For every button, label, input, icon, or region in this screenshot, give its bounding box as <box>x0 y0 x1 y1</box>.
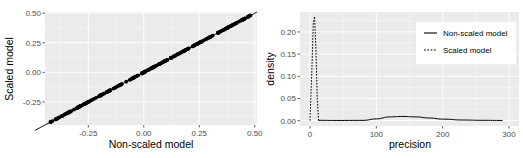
data-point <box>113 86 117 90</box>
data-point <box>193 43 197 47</box>
data-point <box>98 94 102 98</box>
y-tick-label: 0.20 <box>280 28 296 37</box>
x-tick-label: 100 <box>370 130 384 139</box>
data-point <box>84 102 88 106</box>
data-point <box>108 89 112 93</box>
x-tick-label: 300 <box>502 130 516 139</box>
x-axis-title: precision <box>389 138 431 150</box>
data-point <box>187 47 191 51</box>
y-axis-title: Scaled model <box>3 37 15 101</box>
y-tick-label: 0.50 <box>25 9 41 18</box>
y-tick-label: 0.00 <box>25 68 41 77</box>
data-point <box>199 40 203 44</box>
data-point <box>165 58 169 62</box>
x-tick-label: 0.25 <box>191 129 207 138</box>
figure: -0.250.000.250.50-0.250.000.250.50 Non-s… <box>0 0 523 158</box>
x-tick-label: 200 <box>436 130 450 139</box>
data-point <box>49 120 53 124</box>
data-point <box>68 110 72 114</box>
x-tick-label: 0.50 <box>247 129 263 138</box>
data-point <box>130 77 134 81</box>
data-point <box>151 66 155 70</box>
x-tick-label: -0.25 <box>79 129 98 138</box>
data-point <box>56 116 60 120</box>
y-tick-label: 0.15 <box>280 50 296 59</box>
data-point <box>119 82 123 86</box>
data-point <box>94 96 98 100</box>
y-tick-label: 0.00 <box>280 117 296 126</box>
x-tick-label: 0 <box>308 130 313 139</box>
data-point <box>76 105 80 109</box>
density-panel: 01002003000.000.050.100.150.20 Non-scale… <box>264 12 519 150</box>
data-point <box>169 56 173 60</box>
data-point <box>248 14 252 18</box>
data-point <box>241 18 245 22</box>
y-tick-label: 0.25 <box>25 39 41 48</box>
y-tick-label: -0.25 <box>23 98 42 107</box>
y-axis-title: density <box>264 52 276 86</box>
legend: Non-scaled model Scaled model <box>416 22 516 64</box>
x-tick-label: 0.00 <box>136 129 152 138</box>
data-point <box>63 113 67 117</box>
data-point <box>233 22 237 26</box>
data-point <box>174 54 178 58</box>
data-point <box>216 31 220 35</box>
data-point <box>124 80 128 84</box>
scatter-panel: -0.250.000.250.50-0.250.000.250.50 Non-s… <box>3 9 263 150</box>
data-point <box>157 62 161 66</box>
y-tick-label: 0.05 <box>280 94 296 103</box>
y-tick-label: 0.10 <box>280 72 296 81</box>
legend-label-scaled: Scaled model <box>443 46 492 55</box>
legend-label-non-scaled: Non-scaled model <box>443 29 508 38</box>
x-axis-title: Non-scaled model <box>109 138 194 150</box>
data-point <box>183 49 187 53</box>
data-point <box>102 92 106 96</box>
data-point <box>143 70 147 74</box>
data-point <box>72 108 76 112</box>
data-point <box>208 35 212 39</box>
data-point <box>227 25 231 29</box>
data-point <box>220 29 224 33</box>
